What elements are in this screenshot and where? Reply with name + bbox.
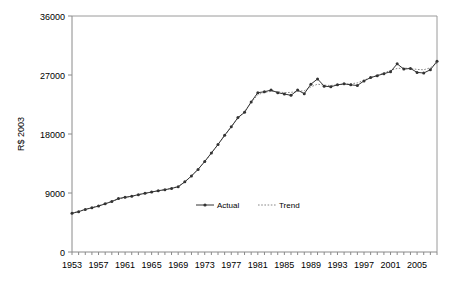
- data-point-marker: [210, 152, 213, 155]
- x-tick-label: 1977: [221, 260, 241, 270]
- data-point-marker: [104, 202, 107, 205]
- x-tick-label: 1973: [195, 260, 215, 270]
- data-point-marker: [329, 85, 332, 88]
- data-point-marker: [363, 79, 366, 82]
- data-point-marker: [323, 85, 326, 88]
- line-chart: 0900018000270003600019531957196119651969…: [0, 0, 456, 288]
- data-point-marker: [409, 67, 412, 70]
- series-line-trend: [72, 63, 437, 213]
- x-tick-label: 1961: [115, 260, 135, 270]
- data-point-marker: [250, 100, 253, 103]
- data-point-marker: [150, 191, 153, 194]
- data-point-marker: [157, 189, 160, 192]
- data-point-marker: [263, 90, 266, 93]
- data-point-marker: [316, 77, 319, 80]
- data-point-marker: [256, 91, 259, 94]
- data-point-marker: [144, 192, 147, 195]
- data-point-marker: [309, 83, 312, 86]
- data-point-marker: [343, 82, 346, 85]
- data-point-marker: [416, 71, 419, 74]
- data-point-marker: [137, 193, 140, 196]
- data-point-marker: [402, 68, 405, 71]
- legend-label-trend: Trend: [279, 201, 300, 210]
- data-point-marker: [110, 200, 113, 203]
- legend-label-actual: Actual: [217, 201, 239, 210]
- chart-container: 0900018000270003600019531957196119651969…: [0, 0, 456, 288]
- x-tick-label: 1965: [142, 260, 162, 270]
- data-point-marker: [369, 76, 372, 79]
- data-point-marker: [163, 188, 166, 191]
- data-point-marker: [130, 195, 133, 198]
- data-point-marker: [223, 134, 226, 137]
- data-point-marker: [236, 116, 239, 119]
- data-point-marker: [84, 208, 87, 211]
- data-point-marker: [203, 160, 206, 163]
- data-point-marker: [376, 74, 379, 77]
- x-tick-label: 1969: [168, 260, 188, 270]
- data-point-marker: [230, 125, 233, 128]
- data-point-marker: [276, 91, 279, 94]
- series-line-actual: [72, 61, 437, 213]
- data-point-marker: [356, 84, 359, 87]
- data-point-marker: [303, 92, 306, 95]
- data-point-marker: [270, 89, 273, 92]
- y-tick-label: 18000: [40, 130, 65, 140]
- data-point-marker: [382, 72, 385, 75]
- data-point-marker: [436, 60, 439, 63]
- data-point-marker: [429, 68, 432, 71]
- x-tick-label: 1981: [248, 260, 268, 270]
- data-point-marker: [97, 205, 100, 208]
- x-tick-label: 1953: [62, 260, 82, 270]
- x-tick-label: 2005: [407, 260, 427, 270]
- x-tick-label: 1997: [354, 260, 374, 270]
- data-point-marker: [290, 94, 293, 97]
- data-point-marker: [90, 206, 93, 209]
- x-tick-label: 1957: [89, 260, 109, 270]
- data-point-marker: [190, 174, 193, 177]
- data-point-marker: [183, 180, 186, 183]
- data-point-marker: [117, 197, 120, 200]
- data-point-marker: [177, 185, 180, 188]
- data-point-marker: [336, 83, 339, 86]
- data-point-marker: [243, 111, 246, 114]
- x-tick-label: 2001: [381, 260, 401, 270]
- data-point-marker: [217, 143, 220, 146]
- data-point-marker: [296, 89, 299, 92]
- y-tick-label: 9000: [45, 189, 65, 199]
- data-point-marker: [77, 210, 80, 213]
- data-point-marker: [349, 83, 352, 86]
- x-tick-label: 1989: [301, 260, 321, 270]
- legend-marker-dot-actual: [203, 203, 206, 206]
- y-tick-label: 27000: [40, 71, 65, 81]
- y-axis-title: R$ 2003: [16, 117, 26, 151]
- data-point-marker: [124, 196, 127, 199]
- data-point-marker: [389, 70, 392, 73]
- data-point-marker: [170, 187, 173, 190]
- data-point-marker: [422, 72, 425, 75]
- y-tick-label: 36000: [40, 12, 65, 22]
- x-tick-label: 1993: [327, 260, 347, 270]
- data-point-marker: [197, 168, 200, 171]
- data-point-marker: [283, 93, 286, 96]
- x-tick-label: 1985: [274, 260, 294, 270]
- data-point-marker: [71, 212, 74, 215]
- data-point-marker: [396, 62, 399, 65]
- y-tick-label: 0: [60, 248, 65, 258]
